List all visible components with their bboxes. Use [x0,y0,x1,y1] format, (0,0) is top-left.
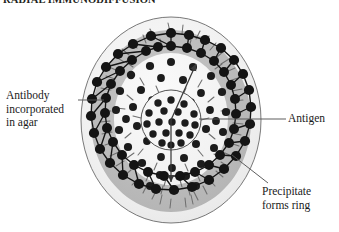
filled-dot-icon [95,144,105,154]
filled-dot-icon [190,110,197,117]
filled-dot-icon [86,111,96,121]
filled-dot-icon [143,120,150,127]
filled-dot-icon [180,100,187,107]
filled-dot-icon [186,131,193,138]
label-precipitate-forms-ring: Precipitate forms ring [262,185,311,212]
filled-dot-icon [210,144,218,152]
filled-dot-icon [191,121,198,128]
filled-dot-icon [231,109,241,119]
filled-dot-icon [106,79,116,89]
filled-dot-icon [219,164,229,174]
filled-dot-icon [190,167,200,177]
filled-dot-icon [134,179,144,189]
label-antibody-incorporated-in-agar: Antibody incorporated in agar [6,89,64,130]
filled-dot-icon [177,139,184,146]
filled-dot-icon [196,48,206,58]
filled-dot-icon [216,43,226,53]
filled-dot-icon [143,167,153,177]
filled-dot-icon [108,137,118,147]
filled-dot-icon [229,55,239,65]
filled-dot-icon [128,39,138,49]
filled-dot-icon [206,106,214,114]
filled-dot-icon [166,41,176,51]
filled-dot-icon [209,56,219,66]
filled-dot-icon [155,118,162,125]
filled-dot-icon [154,99,161,106]
filled-dot-icon [162,129,169,136]
filled-dot-icon [146,31,156,41]
label-antigen: Antigen [288,112,325,126]
filled-dot-icon [137,86,145,94]
filled-dot-icon [226,80,236,90]
filled-dot-icon [200,35,210,45]
filled-dot-icon [159,171,169,181]
filled-dot-icon [167,96,174,103]
filled-dot-icon [240,136,250,146]
filled-dot-icon [218,88,226,96]
filled-dot-icon [245,119,255,129]
filled-dot-icon [157,153,165,161]
filled-dot-icon [124,143,132,151]
filled-dot-icon [169,185,179,195]
filled-dot-icon [127,71,135,79]
filled-dot-icon [224,138,234,148]
filled-dot-icon [160,107,167,114]
filled-dot-icon [182,43,192,53]
filled-dot-icon [122,115,130,123]
filled-dot-icon [127,55,137,65]
filled-dot-icon [204,160,214,170]
filled-dot-icon [115,66,125,76]
filled-dot-icon [89,128,99,138]
filled-dot-icon [105,158,115,168]
filled-dot-icon [168,164,176,172]
filled-dot-icon [207,72,215,80]
filled-dot-icon [129,160,139,170]
filled-dot-icon [117,150,127,160]
filled-dot-icon [212,117,220,125]
filled-dot-icon [229,124,239,134]
filled-dot-icon [138,159,146,167]
filled-dot-icon [146,62,154,70]
filled-dot-icon [231,151,241,161]
filled-dot-icon [187,182,197,192]
filled-dot-icon [153,42,163,52]
filled-dot-icon [116,87,124,95]
filled-dot-icon [92,77,102,87]
filled-dot-icon [115,126,123,134]
filled-dot-icon [101,93,111,103]
filled-dot-icon [244,85,254,95]
filled-dot-icon [197,160,205,168]
filled-dot-icon [112,106,120,114]
filled-dot-icon [102,123,112,133]
filled-dot-icon [181,119,188,126]
filled-dot-icon [168,118,175,125]
filled-dot-icon [202,125,210,133]
filled-dot-icon [184,30,194,40]
filled-dot-icon [113,49,123,59]
filled-dot-icon [166,28,176,38]
filled-dot-icon [180,154,188,162]
filled-dot-icon [246,102,256,112]
filled-dot-icon [175,171,185,181]
filled-dot-icon [219,67,229,77]
filled-dot-icon [87,94,97,104]
figure-canvas: RADIAL IMMUNODIFFUSION [0,0,339,232]
filled-dot-icon [149,130,156,137]
filled-dot-icon [129,103,137,111]
filled-dot-icon [151,184,161,194]
filled-dot-icon [101,62,111,72]
filled-dot-icon [222,108,230,116]
filled-dot-icon [238,69,248,79]
filled-dot-icon [215,150,225,160]
filled-dot-icon [118,170,128,180]
filled-dot-icon [133,122,141,130]
filled-dot-icon [219,128,227,136]
filled-dot-icon [204,175,214,185]
filled-dot-icon [175,129,182,136]
filled-dot-icon [167,58,175,66]
filled-dot-icon [158,139,165,146]
filled-dot-icon [157,74,165,82]
filled-dot-icon [179,76,187,84]
filled-dot-icon [141,46,151,56]
filled-dot-icon [145,109,152,116]
